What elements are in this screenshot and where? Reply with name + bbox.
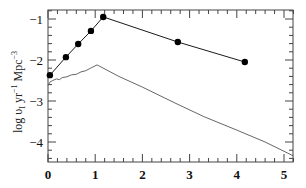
y-tick-label: −1 bbox=[29, 12, 43, 27]
data-point bbox=[75, 41, 81, 47]
y-axis-label: log υI yr−1 Mpc−3 bbox=[10, 51, 27, 133]
x-tick-label: 1 bbox=[92, 167, 99, 182]
x-tick-label: 0 bbox=[45, 167, 52, 182]
plot-area-border bbox=[48, 10, 293, 162]
data-point bbox=[63, 54, 69, 60]
x-tick-label: 2 bbox=[139, 167, 146, 182]
y-axis-tick-labels: −1−2−3−4 bbox=[29, 12, 43, 150]
x-axis-tick-labels: 012345 bbox=[45, 167, 288, 182]
y-tick-label: −2 bbox=[29, 53, 43, 68]
data-series bbox=[47, 14, 294, 156]
series-line bbox=[48, 65, 293, 156]
y-tick-label: −4 bbox=[29, 135, 43, 150]
plot-frame bbox=[48, 10, 293, 162]
data-point bbox=[100, 14, 106, 20]
chart: 012345 −1−2−3−4 log υI yr−1 Mpc−3 bbox=[0, 0, 306, 188]
data-point bbox=[242, 59, 248, 65]
x-tick-label: 5 bbox=[281, 167, 288, 182]
x-tick-label: 3 bbox=[186, 167, 193, 182]
y-tick-label: −3 bbox=[29, 94, 43, 109]
data-point bbox=[88, 28, 94, 34]
x-tick-label: 4 bbox=[234, 167, 241, 182]
data-point bbox=[47, 72, 53, 78]
axis-ticks bbox=[48, 10, 293, 162]
data-point bbox=[175, 39, 181, 45]
